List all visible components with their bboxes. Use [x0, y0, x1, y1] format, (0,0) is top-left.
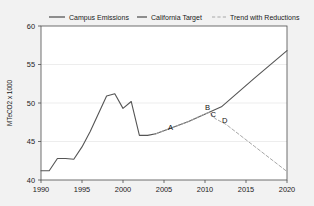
x-tick-label-2020: 2020 [279, 185, 295, 194]
x-tick-label-2005: 2005 [156, 185, 172, 194]
legend-label-0: Campus Emissions [69, 14, 129, 22]
annotation-label-c: C [210, 110, 216, 119]
legend-label-1: California Target [151, 14, 202, 22]
y-tick-label-55: 55 [27, 60, 35, 69]
x-tick-label-2015: 2015 [238, 185, 254, 194]
y-tick-label-60: 60 [27, 22, 35, 31]
x-tick-label-1995: 1995 [74, 185, 90, 194]
x-tick-label-2010: 2010 [197, 185, 213, 194]
x-tick-label-2000: 2000 [115, 185, 131, 194]
y-tick-label-40: 40 [27, 176, 35, 185]
y-tick-label-45: 45 [27, 137, 35, 146]
chart-legend: Campus EmissionsCalifornia TargetTrend w… [49, 14, 300, 22]
chart-canvas: 4045505560 1990199520002005201020152020 … [0, 0, 314, 206]
emissions-line-chart: 4045505560 1990199520002005201020152020 … [0, 0, 314, 206]
x-tick-label-1990: 1990 [33, 185, 49, 194]
annotation-label-b: B [205, 103, 210, 112]
y-tick-label-50: 50 [27, 99, 35, 108]
y-axis-title: MTeCO2 x 1000 [6, 79, 13, 126]
annotation-label-d: D [222, 116, 228, 125]
chart-figure: 4045505560 1990199520002005201020152020 … [0, 0, 314, 206]
legend-label-2: Trend with Reductions [230, 14, 300, 21]
